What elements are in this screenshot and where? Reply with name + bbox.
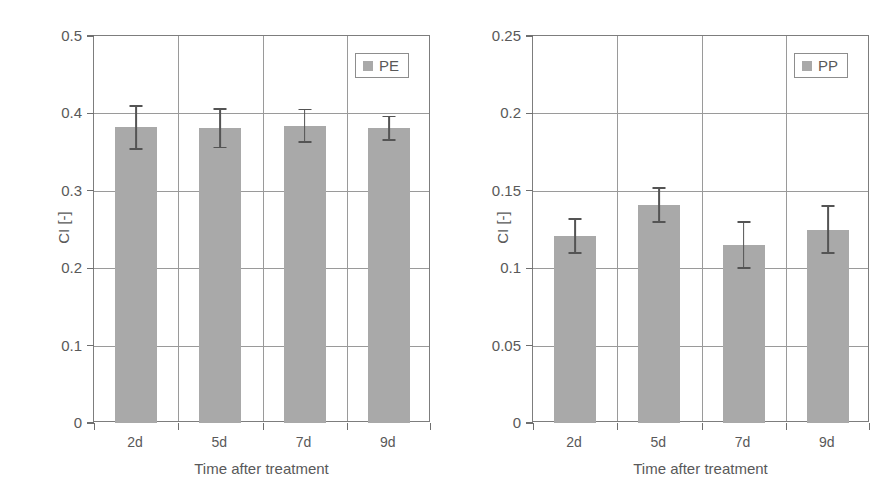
y-axis-tick [526, 422, 533, 423]
x-axis-tick-label: 7d [296, 434, 312, 450]
error-bar-cap-upper [130, 105, 143, 107]
y-axis-tick-label: 0.3 [61, 181, 82, 198]
x-gridline [702, 36, 703, 421]
error-bar [219, 109, 221, 148]
legend-label-pp: PP [818, 58, 838, 73]
y-axis-tick [87, 35, 94, 36]
bar [199, 128, 241, 423]
x-gridline [617, 36, 618, 421]
error-bar-cap-upper [821, 205, 834, 207]
legend-label-pe: PE [379, 58, 399, 73]
error-bar [574, 219, 576, 253]
error-bar-cap-upper [298, 109, 311, 111]
y-axis-tick [87, 268, 94, 269]
x-axis-tick [869, 423, 870, 430]
x-axis-title-pe: Time after treatment [93, 460, 430, 477]
error-bar [658, 188, 660, 222]
y-gridline [533, 113, 868, 114]
y-axis-tick-label: 0.25 [492, 27, 521, 44]
chart-panel-pe: Time after treatment CI [-] PE 00.10.20.… [0, 0, 441, 498]
y-gridline [94, 113, 429, 114]
x-axis-tick [263, 423, 264, 430]
y-axis-tick-label: 0 [513, 414, 521, 431]
x-gridline [178, 36, 179, 421]
y-axis-tick [526, 190, 533, 191]
error-bar-cap-upper [382, 116, 395, 118]
y-axis-tick [526, 268, 533, 269]
x-gridline [786, 36, 787, 421]
x-axis-tick-label: 5d [212, 434, 228, 450]
y-axis-tick-label: 0.05 [492, 336, 521, 353]
y-axis-tick [87, 422, 94, 423]
y-axis-tick-label: 0.1 [61, 336, 82, 353]
error-bar-cap-lower [821, 252, 834, 254]
y-axis-tick-label: 0.1 [500, 259, 521, 276]
chart-panel-pp: Time after treatment CI [-] PP 00.050.10… [441, 0, 882, 498]
x-axis-tick-label: 7d [735, 434, 751, 450]
legend-swatch-icon [802, 61, 812, 71]
bar [638, 205, 680, 423]
y-axis-tick-label: 0.2 [500, 104, 521, 121]
legend-pp: PP [794, 53, 848, 78]
y-axis-title-pe: CI [-] [55, 187, 72, 267]
error-bar [304, 110, 306, 143]
y-axis-tick-label: 0.15 [492, 181, 521, 198]
error-bar-cap-lower [569, 252, 582, 254]
x-axis-tick [533, 423, 534, 430]
x-gridline [263, 36, 264, 421]
error-bar-cap-lower [214, 147, 227, 149]
x-axis-tick [786, 423, 787, 430]
x-gridline [347, 36, 348, 421]
error-bar-cap-lower [130, 148, 143, 150]
x-axis-tick [430, 423, 431, 430]
x-axis-tick-label: 2d [127, 434, 143, 450]
bar [368, 128, 410, 423]
error-bar-cap-lower [298, 141, 311, 143]
error-bar-cap-upper [737, 221, 750, 223]
x-axis-tick [347, 423, 348, 430]
error-bar [827, 206, 829, 252]
y-axis-title-pp: CI [-] [494, 187, 511, 267]
bar [723, 245, 765, 423]
error-bar-cap-upper [569, 218, 582, 220]
x-axis-tick-label: 9d [819, 434, 835, 450]
error-bar-cap-upper [214, 108, 227, 110]
plot-area-pe [93, 35, 430, 422]
plot-area-pp [532, 35, 869, 422]
y-axis-tick-label: 0 [74, 414, 82, 431]
x-axis-tick [178, 423, 179, 430]
y-axis-tick-label: 0.5 [61, 27, 82, 44]
error-bar-cap-lower [737, 267, 750, 269]
error-bar-cap-lower [653, 221, 666, 223]
x-axis-tick [617, 423, 618, 430]
y-axis-tick [87, 113, 94, 114]
legend-pe: PE [355, 53, 409, 78]
bar [115, 127, 157, 423]
error-bar [743, 222, 745, 268]
error-bar-cap-lower [382, 139, 395, 141]
x-axis-tick-label: 9d [380, 434, 396, 450]
y-axis-tick-label: 0.2 [61, 259, 82, 276]
y-axis-tick [526, 345, 533, 346]
two-panel-bar-chart-figure: Time after treatment CI [-] PE 00.10.20.… [0, 0, 883, 498]
error-bar [388, 116, 390, 139]
y-axis-tick [87, 345, 94, 346]
x-axis-title-pp: Time after treatment [532, 460, 869, 477]
error-bar [135, 106, 137, 149]
bar [554, 236, 596, 423]
legend-swatch-icon [363, 61, 373, 71]
x-axis-tick-label: 2d [566, 434, 582, 450]
x-axis-tick-label: 5d [651, 434, 667, 450]
y-gridline [533, 191, 868, 192]
x-axis-tick [94, 423, 95, 430]
y-axis-tick [526, 113, 533, 114]
y-axis-tick [87, 190, 94, 191]
bar [807, 230, 849, 424]
y-axis-tick-label: 0.4 [61, 104, 82, 121]
x-axis-tick [702, 423, 703, 430]
bar [284, 126, 326, 423]
error-bar-cap-upper [653, 187, 666, 189]
y-axis-tick [526, 35, 533, 36]
